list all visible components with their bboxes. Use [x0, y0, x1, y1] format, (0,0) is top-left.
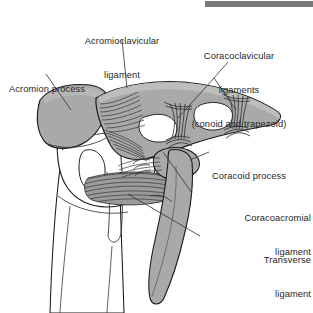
label-line: Coracoclavicular	[168, 51, 310, 62]
label-line: (conoid and trapezoid)	[168, 119, 310, 130]
label-line: ligament	[203, 289, 311, 300]
label-line: Acromion process	[9, 84, 111, 95]
label-acromion-process: Acromion process	[9, 61, 111, 118]
label-line: Coracoacromial	[195, 213, 311, 224]
label-coracoclavicular-ligaments: Coracoclavicular ligaments (conoid and t…	[168, 28, 310, 153]
label-line: Coracoid process	[212, 171, 312, 182]
label-line: ligaments	[168, 85, 310, 96]
label-transverse-ligament: Transverse ligament	[203, 232, 311, 313]
label-line: Transverse	[203, 255, 311, 266]
label-line: Acromioclavicular	[62, 36, 182, 47]
anatomy-figure: Acromioclavicular ligament Coracoclavicu…	[0, 0, 313, 313]
